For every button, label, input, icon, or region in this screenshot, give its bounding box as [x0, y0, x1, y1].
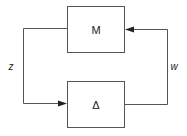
block-delta: Δ [68, 82, 125, 128]
arrow-left-icon [125, 27, 134, 33]
signal-z-label: z [8, 61, 14, 72]
block-m-label: M [91, 24, 100, 36]
block-m: M [68, 7, 125, 53]
signal-w: w [125, 27, 178, 105]
signal-w-wire [125, 30, 168, 105]
signal-z: z [8, 29, 68, 107]
feedback-diagram: M Δ z w [0, 0, 187, 136]
arrow-right-icon [58, 101, 67, 107]
signal-z-wire [24, 29, 68, 104]
block-delta-label: Δ [92, 99, 100, 111]
signal-w-label: w [170, 61, 178, 72]
